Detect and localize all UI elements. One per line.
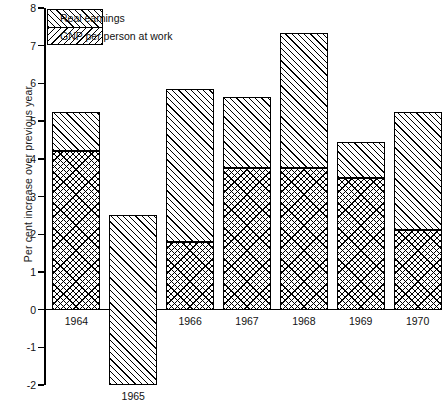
bar-group [223,8,271,385]
y-tick-label: 7 [30,40,36,51]
x-tick-label: 1969 [337,316,385,327]
y-tick-label: 8 [30,3,36,14]
x-tick-label: 1968 [280,316,328,327]
bar-group [337,8,385,385]
bar-group [280,8,328,385]
bar-segment-gnp-per-person [166,242,214,310]
bar-segment-real-earnings [280,33,328,169]
bar-chart-figure: Per cent increase over previous year -2-… [0,0,445,403]
plot-area: -2-1012345678 19641965196619671968196919… [44,8,442,385]
y-tick-mark [38,45,44,46]
y-tick-label: 5 [30,116,36,127]
y-tick-mark [38,271,44,272]
y-tick-label: 3 [30,191,36,202]
y-tick-mark [38,158,44,159]
y-tick-label: -1 [27,342,36,353]
y-tick-label: 0 [30,304,36,315]
y-tick-label: 1 [30,267,36,278]
bar-segment-real-earnings [394,112,442,231]
bar-segment-real-earnings [109,215,157,385]
y-tick-label: 4 [30,154,36,165]
bar-group [394,8,442,385]
y-tick-label: 6 [30,78,36,89]
x-tick-label: 1965 [109,391,157,402]
bar-segment-real-earnings [223,97,271,169]
y-tick-mark [38,309,44,310]
bar-group [109,8,157,385]
bar-group [52,8,100,385]
y-tick-mark [38,120,44,121]
legend-label-gnp-per-person: GNP per person at work [60,31,172,42]
bar-segment-gnp-per-person [337,178,385,310]
y-axis-label: Per cent increase over previous year [22,54,34,294]
x-tick-label: 1964 [52,316,100,327]
y-tick-label: 2 [30,229,36,240]
bar-segment-gnp-per-person [223,168,271,309]
bar-segment-gnp-per-person [52,151,100,309]
x-tick-label: 1967 [223,316,271,327]
y-tick-mark [38,384,44,385]
bar-segment-real-earnings [166,89,214,242]
x-tick-label: 1966 [166,316,214,327]
legend-label-real-earnings: Real earnings [60,13,125,24]
y-tick-mark [38,196,44,197]
y-tick-mark [38,83,44,84]
bar-group [166,8,214,385]
bar-segment-real-earnings [52,112,100,152]
y-tick-mark [38,7,44,8]
bar-segment-real-earnings [337,142,385,178]
bar-segment-gnp-per-person [280,168,328,309]
y-tick-mark [38,347,44,348]
y-tick-mark [38,234,44,235]
x-tick-label: 1970 [394,316,442,327]
y-tick-label: -2 [27,380,36,391]
bar-segment-gnp-per-person [394,230,442,309]
y-axis-line [44,8,46,385]
